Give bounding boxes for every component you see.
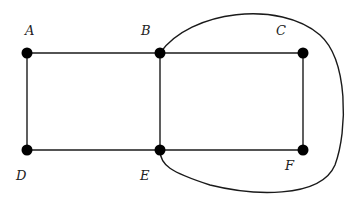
- nodes-layer: [22, 48, 309, 156]
- node-label-c: C: [276, 23, 286, 38]
- node-f: [298, 145, 309, 156]
- node-label-a: A: [24, 23, 34, 38]
- node-label-b: B: [140, 23, 151, 38]
- node-b: [155, 48, 166, 59]
- node-label-f: F: [284, 158, 295, 173]
- node-label-d: D: [15, 168, 27, 183]
- edges-layer: [27, 14, 343, 193]
- node-d: [22, 145, 33, 156]
- node-e: [155, 145, 166, 156]
- labels-layer: ABCDEF: [15, 23, 295, 183]
- graph-svg: ABCDEF: [0, 0, 358, 201]
- graph-diagram: ABCDEF: [0, 0, 358, 201]
- edge-b-e-curved: [160, 14, 343, 193]
- node-label-e: E: [139, 168, 150, 183]
- node-c: [298, 48, 309, 59]
- node-a: [22, 48, 33, 59]
